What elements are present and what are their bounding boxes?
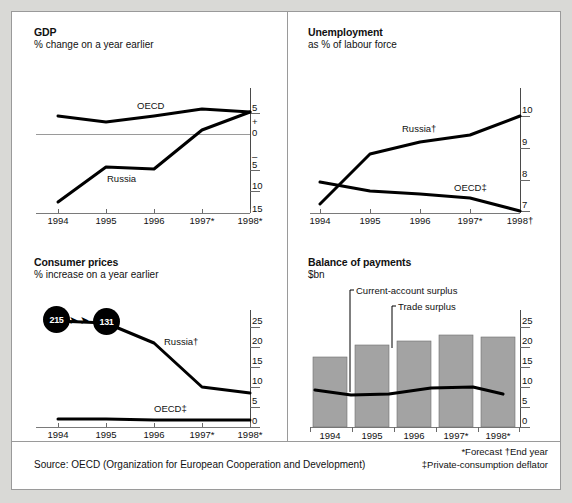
panel-unemployment: Unemployment as % of labour force 10 9 8… — [288, 12, 561, 241]
consumer-prices-arrow-2-icon: ➤ — [80, 315, 89, 325]
leader-line-current-account — [350, 290, 354, 295]
balance-of-payments-plot — [288, 242, 561, 441]
consumer-prices-arrow-1-icon: ➤ — [69, 315, 78, 325]
leader-line-trade — [392, 306, 396, 311]
source-note: Source: OECD (Organization for European … — [34, 459, 365, 470]
bar-1998 — [481, 337, 515, 427]
gdp-plot — [12, 12, 287, 241]
gdp-series-russia-line — [58, 112, 250, 202]
consumer-prices-series-label-oecd: OECD‡ — [154, 404, 187, 414]
unemployment-series-oecd-line — [320, 182, 520, 211]
bar-1997 — [439, 335, 473, 427]
panel-divider-horizontal — [12, 441, 561, 442]
gdp-series-label-russia: Russia — [107, 174, 136, 184]
balance-of-payments-xlabel-1998: 1998* — [475, 431, 521, 441]
balance-of-payments-xlabel-1994: 1994 — [307, 431, 353, 441]
panel-gdp: GDP % change on a year earlier 5 + 0 – 5… — [12, 12, 287, 241]
chart-figure: GDP % change on a year earlier 5 + 0 – 5… — [11, 11, 561, 490]
bar-1995 — [355, 345, 389, 427]
consumer-prices-series-oecd-line — [58, 419, 250, 420]
consumer-prices-series-label-russia: Russia† — [164, 337, 198, 347]
panel-balance-of-payments: Balance of payments $bn 25 20 15 10 5 0 — [288, 242, 561, 441]
consumer-prices-bubble-215: 215 — [43, 306, 70, 333]
consumer-prices-series-russia-line — [58, 321, 250, 393]
balance-of-payments-xlabel-1996: 1996 — [391, 431, 437, 441]
footnote-line-1: *Forecast †End year — [248, 446, 548, 458]
balance-of-payments-annotation-trade: Trade surplus — [398, 302, 456, 312]
unemployment-series-label-oecd: OECD‡ — [454, 183, 487, 193]
gdp-series-label-oecd: OECD — [137, 101, 164, 111]
consumer-prices-plot — [12, 242, 287, 441]
balance-of-payments-xlabel-1995: 1995 — [349, 431, 395, 441]
unemployment-series-label-russia: Russia† — [402, 124, 436, 134]
panel-consumer-prices: Consumer prices % increase on a year ear… — [12, 242, 287, 441]
consumer-prices-bubble-131: 131 — [93, 308, 120, 335]
balance-of-payments-xlabel-1997: 1997* — [433, 431, 479, 441]
balance-of-payments-annotation-current-account: Current-account surplus — [356, 286, 457, 296]
bar-1996 — [397, 341, 431, 427]
